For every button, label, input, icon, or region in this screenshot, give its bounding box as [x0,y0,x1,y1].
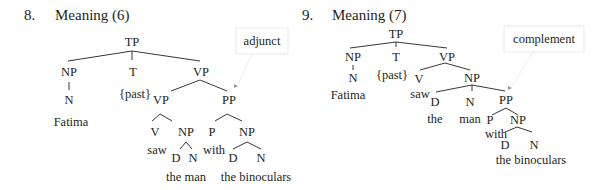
node-t: T [129,65,137,79]
node-n-object: N [465,95,474,109]
callout-label-adjunct: adjunct [244,34,281,48]
callout-pointer-line [512,52,533,86]
word-saw: saw [147,143,166,157]
node-n: N [348,71,357,85]
node-tp: TP [125,35,140,49]
tree-title: Meaning (6) [55,7,130,24]
callout-label-complement: complement [513,32,575,46]
tree-title: Meaning (7) [332,7,407,24]
tree-meaning-7: 9. Meaning (7) complement TP NP T VP N {… [302,7,584,167]
node-vp-inner: VP [153,93,169,107]
node-n-pp: N [529,138,538,152]
node-v: V [414,72,423,86]
node-d-pp: D [228,151,237,165]
node-v: V [150,125,159,139]
word-saw: saw [410,87,429,101]
node-past: {past} [376,68,408,82]
node-d: D [171,151,180,165]
node-t: T [392,50,400,64]
node-past: {past} [119,87,151,101]
word-the: the [427,112,443,126]
word-with: with [203,143,226,157]
callout-arrow-icon [508,86,512,90]
node-d: D [430,95,439,109]
node-np-pp: NP [239,125,255,139]
word-man: man [459,112,481,126]
node-n: N [64,93,73,107]
node-np: NP [345,50,361,64]
node-tp: TP [389,27,404,41]
node-np-object: NP [178,125,194,139]
node-p: P [209,125,216,139]
word-fatima: Fatima [331,88,366,102]
callout-pointer-line [238,54,252,84]
words-the-man: the man [166,170,207,184]
node-n-object: N [188,151,197,165]
node-np: NP [61,65,77,79]
node-vp: VP [439,50,455,64]
tree-meaning-6: 8. Meaning (6) adjunct TP NP T VP N {pas… [24,7,291,184]
example-number: 8. [24,7,35,23]
node-np-object: NP [464,71,480,85]
example-number: 9. [302,7,313,23]
node-n-pp: N [256,151,265,165]
words-the-binoculars: the binoculars [221,170,292,184]
node-vp: VP [193,65,209,79]
syntax-trees-figure: 8. Meaning (6) adjunct TP NP T VP N {pas… [0,0,601,190]
node-pp: PP [222,93,236,107]
node-d-pp: D [500,138,509,152]
word-fatima: Fatima [54,115,89,129]
callout-arrow-icon [234,84,238,88]
words-the-binoculars: the binoculars [496,153,567,167]
node-pp: PP [499,93,513,107]
node-np-pp: NP [510,113,526,127]
node-p: P [487,113,494,127]
